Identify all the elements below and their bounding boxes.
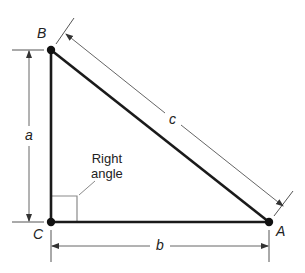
vertex-label-a: A	[276, 224, 285, 238]
right-angle-label-line2: angle	[91, 166, 123, 181]
side-label-c: c	[169, 112, 176, 126]
side-c-line	[51, 50, 269, 222]
side-label-b: b	[156, 238, 164, 252]
vertex-c-dot	[47, 218, 55, 226]
triangle	[51, 50, 269, 222]
vertex-b-dot	[47, 46, 55, 54]
right-triangle-diagram: B C A a b c Right angle	[0, 0, 305, 273]
vertex-label-b: B	[37, 26, 46, 40]
vertex-a-dot	[265, 218, 273, 226]
right-angle-label-line1: Right	[91, 151, 123, 166]
right-angle-label: Right angle	[91, 151, 123, 181]
vertex-label-c: C	[33, 227, 43, 241]
right-angle-marker	[51, 181, 95, 222]
side-label-a: a	[25, 128, 33, 142]
